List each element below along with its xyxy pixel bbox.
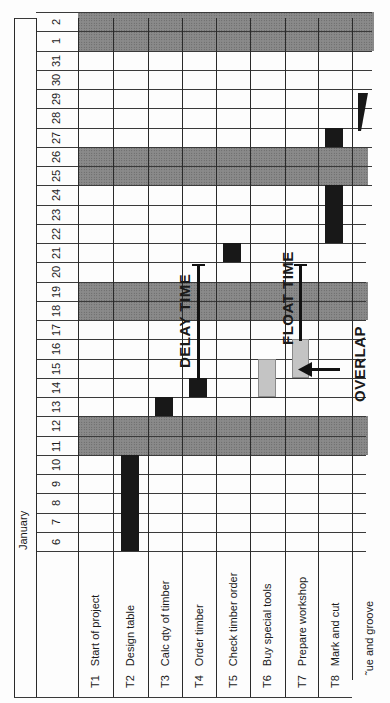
day-gridline: [36, 243, 366, 244]
float-time-bracket: [299, 265, 302, 341]
day-label: 14: [50, 382, 62, 394]
day-label: 25: [50, 170, 62, 182]
day-gridline: [36, 166, 372, 167]
day-gridline: [36, 89, 372, 90]
column-gridline: [285, 18, 286, 697]
day-label: 28: [50, 112, 62, 124]
task-id: T7: [296, 675, 308, 688]
day-label: 7: [50, 519, 62, 525]
day-gridline: [36, 359, 366, 360]
task-name: Mark and cut: [329, 603, 341, 667]
day-gridline: [36, 513, 366, 514]
day-label: 20: [50, 266, 62, 278]
day-label: 9: [50, 481, 62, 487]
day-label: 6: [50, 538, 62, 544]
weekend-band: [78, 282, 368, 301]
day-label: 30: [50, 74, 62, 86]
task-label: T1Start of project: [89, 595, 101, 688]
task-label: T7Prepare workshop: [296, 577, 308, 688]
weekend-band: [78, 436, 368, 455]
day-gridline: [36, 51, 372, 52]
weekend-band: [78, 12, 374, 31]
day-gridline: [36, 397, 366, 398]
task-name: Calc qty of timber: [159, 581, 171, 667]
day-label: 13: [50, 401, 62, 413]
task-bar-partial: [358, 93, 368, 131]
task-bar: [325, 185, 343, 243]
task-id: T3: [159, 675, 171, 688]
day-gridline: [36, 455, 366, 456]
column-gridline: [113, 18, 114, 697]
task-label: T5Check timber order: [227, 573, 239, 688]
day-gridline: [36, 474, 366, 475]
delay-time-label: DELAY TIME: [176, 274, 193, 368]
day-gridline: [36, 493, 366, 494]
day-gridline: [36, 282, 366, 283]
day-gridline: [36, 147, 372, 148]
weekend-band: [78, 416, 368, 435]
column-gridline: [36, 18, 37, 697]
column-gridline: [78, 18, 79, 697]
day-gridline: [36, 108, 372, 109]
day-label: 19: [50, 285, 62, 297]
task-id: T5: [227, 675, 239, 688]
day-gridline: [36, 185, 372, 186]
delay-time-bracket-cap: [192, 264, 205, 266]
weekend-band: [78, 166, 368, 185]
day-gridline: [36, 31, 372, 32]
task-name: Order timber: [193, 604, 205, 666]
day-gridline: [36, 551, 366, 552]
float-time-label: FLOAT TIME: [279, 251, 296, 345]
column-gridline: [148, 18, 149, 697]
task-name: ˜ue and groove: [363, 601, 375, 675]
task-label: T2Design table: [124, 605, 136, 688]
task-bar: [189, 378, 207, 397]
day-gridline: [36, 320, 366, 321]
task-bar: [155, 397, 173, 416]
day-gridline: [36, 128, 372, 129]
task-bar: [223, 243, 241, 262]
day-label: 17: [50, 324, 62, 336]
day-gridline: [36, 532, 366, 533]
task-name: Start of project: [89, 595, 101, 667]
task-name: Prepare workshop: [296, 577, 308, 666]
day-gridline: [36, 224, 366, 225]
task-id: T8: [329, 675, 341, 688]
weekend-band: [78, 301, 368, 320]
day-label: 21: [50, 247, 62, 259]
border-top: [14, 18, 36, 19]
task-bar: [258, 359, 276, 398]
day-label: 18: [50, 305, 62, 317]
day-label: 2: [50, 19, 62, 25]
task-label: T6Buy special tools: [261, 584, 273, 688]
overlap-label: OVERLAP: [351, 326, 368, 402]
day-gridline: [36, 436, 366, 437]
delay-time-bracket: [197, 265, 200, 380]
day-label: 27: [50, 131, 62, 143]
day-gridline: [36, 339, 366, 340]
overlap-arrow-shaft: [310, 368, 340, 371]
task-label: T3Calc qty of timber: [159, 581, 171, 688]
day-gridline: [36, 416, 366, 417]
column-gridline: [216, 18, 217, 697]
task-id: T6: [261, 675, 273, 688]
month-label: January: [17, 511, 29, 550]
day-label: 15: [50, 362, 62, 374]
day-label: 10: [50, 459, 62, 471]
gantt-chart: 6789101112131415161718192021222324252627…: [0, 0, 390, 703]
day-label: 24: [50, 189, 62, 201]
day-label: 1: [50, 38, 62, 44]
task-id: T1: [89, 675, 101, 688]
column-gridline: [14, 18, 15, 697]
column-gridline: [318, 18, 319, 697]
task-name: Buy special tools: [261, 584, 273, 667]
day-label: 12: [50, 420, 62, 432]
day-label: 11: [50, 440, 62, 451]
day-label: 23: [50, 208, 62, 220]
border-bottom: [14, 697, 352, 698]
task-name: Check timber order: [227, 573, 239, 667]
weekend-band: [78, 31, 374, 50]
day-label: 31: [50, 54, 62, 66]
day-gridline: [36, 12, 372, 13]
day-label: 16: [50, 343, 62, 355]
